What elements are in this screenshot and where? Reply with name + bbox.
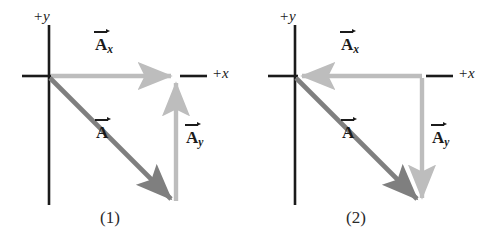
vector-arrow-accent-icon: A: [95, 36, 107, 53]
y-component-label-letter-2: A: [432, 128, 444, 147]
y-component-label-subscript-1: y: [198, 136, 203, 148]
x-component-label-2: Ax: [341, 36, 359, 53]
resultant-label-1: A: [96, 124, 108, 141]
resultant-label-letter-1: A: [96, 123, 108, 142]
vector-diagram-2-graphics: [246, 0, 491, 237]
y-axis-label-2: +y: [279, 9, 296, 24]
x-axis-label-text-2: +x: [458, 65, 475, 81]
resultant-vector-2: [296, 78, 417, 199]
x-axis-label-1: +x: [212, 66, 229, 81]
y-component-label-1: Ay: [186, 129, 203, 146]
vector-arrow-accent-icon: A: [432, 129, 444, 146]
x-component-label-letter-1: A: [95, 35, 107, 54]
y-component-label-letter-1: A: [186, 128, 198, 147]
x-axis-label-2: +x: [458, 66, 475, 81]
vector-arrow-accent-icon: A: [96, 124, 108, 141]
x-component-label-letter-2: A: [341, 35, 353, 54]
diagram-panel-1: +y +x Ax A Ay (1): [0, 0, 245, 237]
resultant-label-2: A: [342, 124, 354, 141]
vector-arrow-accent-icon: A: [341, 36, 353, 53]
y-component-label-2: Ay: [432, 129, 449, 146]
diagram-panel-2: +y +x Ax A Ay (2): [246, 0, 491, 237]
panel-caption-2: (2): [346, 208, 366, 228]
resultant-label-letter-2: A: [342, 123, 354, 142]
y-axis-label-text-2: +y: [279, 8, 296, 24]
x-component-label-subscript-1: x: [107, 43, 113, 55]
vector-arrow-accent-icon: A: [342, 124, 354, 141]
x-component-label-1: Ax: [95, 36, 113, 53]
resultant-vector-1: [50, 78, 171, 199]
figure-canvas: +y +x Ax A Ay (1): [0, 0, 491, 237]
vector-diagram-1-graphics: [0, 0, 245, 237]
y-axis-label-text-1: +y: [33, 8, 50, 24]
vector-arrow-accent-icon: A: [186, 129, 198, 146]
y-axis-label-1: +y: [33, 9, 50, 24]
y-component-label-subscript-2: y: [444, 136, 449, 148]
x-component-label-subscript-2: x: [353, 43, 359, 55]
panel-caption-1: (1): [100, 208, 120, 228]
x-axis-label-text-1: +x: [212, 65, 229, 81]
